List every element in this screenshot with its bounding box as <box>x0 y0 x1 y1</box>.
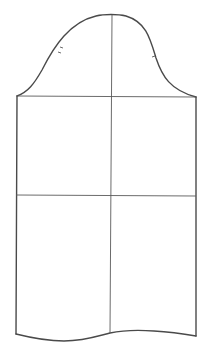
front-notch <box>152 56 155 57</box>
hem-curve <box>16 330 196 341</box>
back-notch-1 <box>60 47 63 48</box>
left-underarm-seam <box>16 96 17 334</box>
back-notch-2 <box>58 52 61 53</box>
sleeve-cap-curve <box>17 15 196 98</box>
sleeve-pattern-diagram <box>0 0 208 361</box>
center-grainline <box>110 15 112 333</box>
elbow-line <box>16 195 196 196</box>
bicep-line <box>17 96 196 97</box>
